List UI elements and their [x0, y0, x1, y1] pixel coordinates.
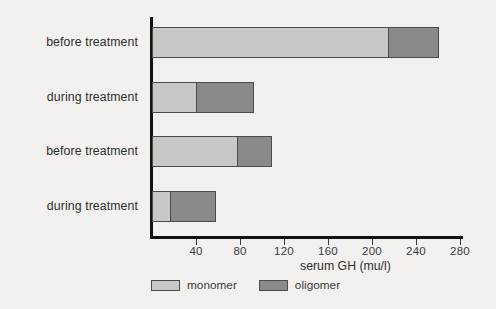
legend-label: monomer	[187, 278, 237, 292]
chart-legend: monomeroligomer	[151, 278, 340, 292]
legend-item: monomer	[151, 278, 237, 292]
category-label: before treatment	[46, 35, 138, 49]
bar-segment-monomer	[152, 191, 171, 222]
bar-stack	[152, 136, 272, 167]
x-tick-label: 80	[220, 245, 260, 257]
category-label: during treatment	[47, 90, 138, 104]
bar-segment-monomer	[152, 82, 197, 113]
x-tick-label: 280	[440, 245, 480, 257]
x-tick-label: 160	[308, 245, 348, 257]
x-tick-label: 120	[264, 245, 304, 257]
x-axis-title: serum GH (mu/l)	[300, 259, 391, 273]
bar-stack	[152, 82, 254, 113]
bar-segment-oligomer	[170, 191, 216, 222]
category-label: before treatment	[46, 144, 138, 158]
bar-segment-oligomer	[388, 27, 440, 58]
bar-segment-monomer	[152, 27, 389, 58]
bar-segment-oligomer	[237, 136, 272, 167]
bar-stack	[152, 191, 216, 222]
x-tick-label: 240	[396, 245, 436, 257]
legend-swatch-monomer	[151, 280, 180, 291]
bar-segment-oligomer	[196, 82, 254, 113]
legend-swatch-oligomer	[259, 280, 288, 291]
bar-segment-monomer	[152, 136, 238, 167]
legend-label: oligomer	[295, 278, 340, 292]
stacked-bar-chart: 4080120160200240280 before treatmentduri…	[0, 0, 496, 309]
x-tick-label: 40	[176, 245, 216, 257]
legend-item: oligomer	[259, 278, 340, 292]
x-tick-label: 200	[352, 245, 392, 257]
category-label: during treatment	[47, 199, 138, 213]
bar-stack	[152, 27, 439, 58]
